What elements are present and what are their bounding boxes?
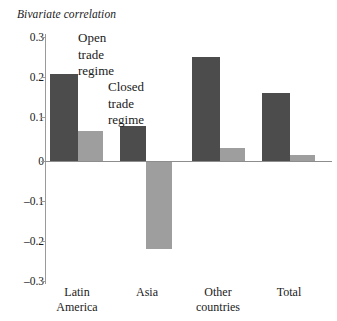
bivariate-correlation-bar-chart: Bivariate correlation 0.3 0.2 0.1 0 –0.1… (0, 0, 337, 321)
bar-total-open-trade-regime (262, 93, 290, 161)
legend-label-open-trade-regime: Open trade regime (78, 30, 114, 80)
y-tick-mark-0.1 (41, 117, 45, 118)
legend-label-closed-trade-regime: Closed trade regime (108, 79, 144, 129)
y-tick-mark--0.3 (41, 281, 45, 282)
y-axis-title: Bivariate correlation (17, 8, 116, 20)
y-tick-mark--0.2 (41, 241, 45, 242)
bar-asia-open-trade-regime (120, 126, 146, 161)
bar-latin-america-closed-trade-regime (78, 131, 103, 161)
y-tick-mark-0.3 (41, 37, 45, 38)
x-category-label-total: Total (248, 285, 330, 300)
y-tick-mark--0.1 (41, 201, 45, 202)
y-tick-mark-0 (41, 161, 45, 162)
x-axis-zero-line (45, 161, 332, 162)
bar-latin-america-open-trade-regime (50, 74, 78, 161)
bar-asia-closed-trade-regime (146, 162, 172, 249)
bar-other-countries-open-trade-regime (192, 57, 220, 161)
bar-other-countries-closed-trade-regime (220, 148, 245, 161)
x-category-label-other-countries: Other countries (177, 285, 259, 314)
bar-total-closed-trade-regime (290, 155, 315, 161)
y-tick-mark-0.2 (41, 77, 45, 78)
x-category-label-asia: Asia (106, 285, 188, 300)
